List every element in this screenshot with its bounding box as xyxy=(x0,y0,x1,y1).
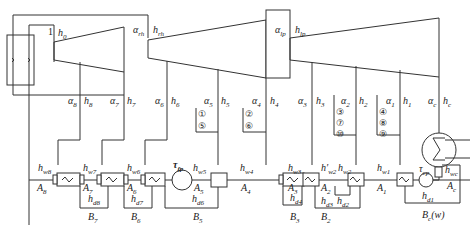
alpha-c: αc xyxy=(428,96,436,109)
hw6: hw6 xyxy=(127,163,140,176)
circled-10: ⑩ xyxy=(336,130,344,139)
label-b7: B7 xyxy=(88,212,98,225)
hw2: hw2 xyxy=(338,163,351,176)
stage-number: 1 xyxy=(48,27,53,37)
hw8: hw8 xyxy=(38,163,51,176)
hw7: hw7 xyxy=(83,163,96,176)
h6: h6 xyxy=(171,96,180,109)
circled-6: ⑥ xyxy=(245,122,253,131)
label-bc: Bc(w) xyxy=(422,210,445,223)
heater-a7 xyxy=(97,173,128,186)
circled-7: ⑦ xyxy=(336,119,344,128)
hd8: hd8 xyxy=(88,194,100,207)
label-a1: A1 xyxy=(377,183,387,196)
heater-a1 xyxy=(397,173,413,186)
h5: h5 xyxy=(221,96,230,109)
hw1: hw1 xyxy=(377,163,390,176)
label-b2: B2 xyxy=(321,212,331,225)
h-c: hc xyxy=(443,96,451,109)
alpha1: α1 xyxy=(386,96,395,109)
h2: h2 xyxy=(359,96,368,109)
label-alpha-rh: αrh xyxy=(133,25,144,38)
circled-2: ② xyxy=(245,110,253,119)
ip-turbine xyxy=(148,20,266,78)
label-a8: A8 xyxy=(37,183,47,196)
label-alpha-lp: αlp xyxy=(275,25,286,38)
hd3: hd3 xyxy=(321,196,333,209)
thermal-system-diagram xyxy=(0,0,470,225)
circled-1: ① xyxy=(198,110,206,119)
h3: h3 xyxy=(316,96,325,109)
lp-crossover xyxy=(266,10,290,78)
alpha6: α6 xyxy=(155,96,164,109)
label-a4: A4 xyxy=(241,183,251,196)
hwc: hwc xyxy=(445,165,458,178)
circled-9: ⑨ xyxy=(379,130,387,139)
label-tau-fp: τfp xyxy=(173,160,183,173)
alpha4: α4 xyxy=(252,96,261,109)
label-ac: Ac xyxy=(447,181,456,194)
alpha3: α3 xyxy=(298,96,307,109)
heater-a8 xyxy=(53,173,84,186)
heater-a6 xyxy=(141,173,165,186)
deaerator-a5 xyxy=(211,173,227,187)
alpha5: α5 xyxy=(204,96,213,109)
label-tau-cp: τcp xyxy=(419,164,429,177)
circled-5: ⑤ xyxy=(198,122,206,131)
label-h0: h0 xyxy=(58,28,67,41)
hd7: hd7 xyxy=(131,194,143,207)
hw3: hw3 xyxy=(288,163,301,176)
label-b5: B5 xyxy=(193,212,203,225)
hw4: hw4 xyxy=(240,163,253,176)
label-b3: B3 xyxy=(290,212,300,225)
alpha8: α8 xyxy=(68,96,77,109)
hd4: hd4 xyxy=(290,193,302,206)
h8: h8 xyxy=(84,96,93,109)
hd2: hd2 xyxy=(337,196,349,209)
hw2-prime: h′w2 xyxy=(321,163,336,176)
hd1: hd1 xyxy=(422,191,434,204)
label-h-lp: hlp xyxy=(295,25,305,38)
circled-8: ⑧ xyxy=(379,119,387,128)
feed-pump xyxy=(172,170,192,190)
label-h-rh: hrh xyxy=(153,25,164,38)
h4: h4 xyxy=(270,96,279,109)
hd6: hd6 xyxy=(192,194,204,207)
hw5: hw5 xyxy=(193,163,206,176)
alpha7: α7 xyxy=(110,96,119,109)
h7: h7 xyxy=(127,96,136,109)
label-b6: B6 xyxy=(131,212,141,225)
circled-3: ③ xyxy=(336,108,344,117)
heater-a2 xyxy=(303,173,319,186)
h1: h1 xyxy=(403,96,412,109)
circled-4: ④ xyxy=(379,108,387,117)
